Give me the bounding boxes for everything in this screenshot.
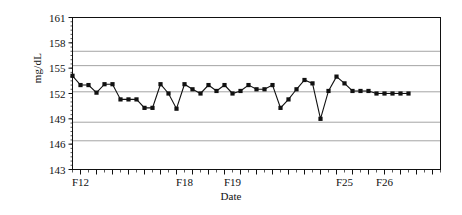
data-point-marker [70, 74, 74, 78]
data-point-marker [374, 91, 378, 95]
x-tick-label-F18: F18 [176, 176, 194, 188]
gridlines-group [73, 51, 441, 141]
data-point-marker [382, 91, 386, 95]
data-point-marker [198, 91, 202, 95]
line-chart-plot: 143146149152155158161 F12F18F19F25F26 [0, 0, 462, 215]
y-tick-label-161: 161 [49, 12, 66, 24]
y-tick-label-155: 155 [49, 62, 66, 74]
y-tick-label-149: 149 [49, 113, 66, 125]
data-point-marker [158, 82, 162, 86]
data-point-marker [190, 87, 194, 91]
data-point-marker [310, 81, 314, 85]
data-point-marker [238, 89, 242, 93]
data-point-marker [390, 91, 394, 95]
x-tick-label-F12: F12 [72, 176, 89, 188]
data-point-marker [278, 106, 282, 110]
data-point-marker [270, 83, 274, 87]
data-point-marker [94, 91, 98, 95]
series-line-mg-dl [73, 76, 409, 119]
data-point-marker [78, 83, 82, 87]
data-point-marker [142, 106, 146, 110]
data-point-marker [86, 83, 90, 87]
data-point-marker [262, 87, 266, 91]
data-point-marker [342, 81, 346, 85]
data-point-marker [406, 91, 410, 95]
data-point-marker [366, 89, 370, 93]
data-point-marker [222, 83, 226, 87]
data-point-marker [134, 97, 138, 101]
data-point-marker [398, 91, 402, 95]
x-axis-tick-labels: F12F18F19F25F26 [72, 176, 394, 188]
y-tick-label-143: 143 [49, 164, 66, 176]
data-point-marker [326, 89, 330, 93]
data-point-marker [118, 97, 122, 101]
x-axis-ticks [73, 170, 441, 175]
data-point-marker [174, 107, 178, 111]
data-point-marker [110, 82, 114, 86]
data-point-marker [126, 97, 130, 101]
y-tick-label-152: 152 [49, 88, 66, 100]
data-point-marker [286, 97, 290, 101]
data-point-marker [254, 87, 258, 91]
data-point-marker [358, 89, 362, 93]
series-markers-mg-dl [70, 74, 410, 121]
y-tick-label-158: 158 [49, 37, 66, 49]
data-point-marker [294, 87, 298, 91]
x-tick-label-F25: F25 [336, 176, 354, 188]
x-tick-label-F19: F19 [224, 176, 242, 188]
x-tick-label-F26: F26 [376, 176, 394, 188]
data-point-marker [230, 91, 234, 95]
data-point-marker [102, 82, 106, 86]
data-line [73, 76, 409, 119]
y-axis-tick-labels: 143146149152155158161 [49, 12, 66, 176]
data-point-marker [334, 75, 338, 79]
data-point-marker [214, 89, 218, 93]
data-point-marker [318, 117, 322, 121]
data-point-marker [246, 83, 250, 87]
y-tick-label-146: 146 [49, 138, 66, 150]
y-axis-ticks [69, 18, 73, 170]
data-point-marker [350, 89, 354, 93]
chart-figure: mg/dL Date 143146149152155158161 F12F18F… [0, 0, 462, 215]
data-point-marker [150, 106, 154, 110]
data-point-marker [182, 82, 186, 86]
data-point-marker [206, 83, 210, 87]
data-point-marker [302, 78, 306, 82]
data-point-marker [166, 91, 170, 95]
